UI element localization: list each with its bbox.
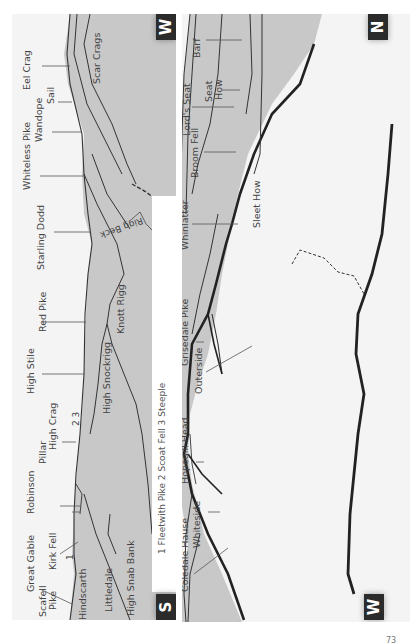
label-coledale-hause: Coledale Hause xyxy=(182,518,190,592)
label-pike: Pike xyxy=(48,591,58,610)
label-1: 1 xyxy=(66,554,75,560)
label-sleet-how: Sleet How xyxy=(252,180,262,228)
label-whinlatter: Whinlatter xyxy=(182,200,190,250)
label-scar-crags: Scar Crags xyxy=(92,33,102,84)
caption-key: 1 Fleetwith Pike 2 Scoat Fell 3 Steeple xyxy=(158,383,167,554)
label-whiteless-pike: Whiteless Pike xyxy=(22,122,32,190)
page-number: 73 xyxy=(386,636,396,644)
label-eel-crag: Eel Crag xyxy=(22,50,32,90)
label-hindscarth: Hindscarth xyxy=(78,569,88,620)
label-sail: Sail xyxy=(46,87,56,104)
label-leader-lines xyxy=(182,14,410,622)
label-broom-fell: Broom Fell xyxy=(190,128,200,178)
label-great-gable: Great Gable xyxy=(26,535,36,592)
label-wandope: Wandope xyxy=(34,98,44,142)
label-outerside: Outerside xyxy=(194,348,204,394)
label-high-crag: High Crag xyxy=(48,403,58,450)
direction-badge-west: W xyxy=(156,14,176,40)
label-red-pike: Red Pike xyxy=(38,292,48,332)
label-kirk-fell: Kirk Fell xyxy=(48,533,58,570)
direction-badge-north: N xyxy=(368,14,388,40)
label-knott-rigg: Knott Rigg xyxy=(116,284,126,334)
label-robinson: Robinson xyxy=(26,471,36,514)
label-grisedale-pike: Grisedale Pike xyxy=(182,299,190,366)
label-whiteside: Whiteside xyxy=(192,501,202,548)
label-barf: Barf xyxy=(192,38,202,58)
label-starling-dodd: Starling Dodd xyxy=(36,205,46,270)
label-2-3: 2 3 xyxy=(72,412,81,426)
label-high-stile: High Stile xyxy=(26,348,36,394)
label-how: How xyxy=(214,79,224,100)
label-littledale: Littledale xyxy=(104,568,114,612)
label-high-snockrigg: High Snockrigg xyxy=(102,342,112,414)
label-high-snab-bank: High Snab Bank xyxy=(126,540,136,616)
direction-badge-south: S xyxy=(156,594,176,620)
label-pillar: Pillar xyxy=(38,441,48,464)
direction-badge-west-start: W xyxy=(364,594,384,620)
label-hopegill-head: Hopegill Head xyxy=(182,417,190,484)
panorama-panel-south-west: Eel Crag Sail Wandope Whiteless Pike Sca… xyxy=(12,14,176,620)
panorama-panel-west-north: Barf Seat How Lord's Seat Broom Fell Whi… xyxy=(182,14,410,622)
